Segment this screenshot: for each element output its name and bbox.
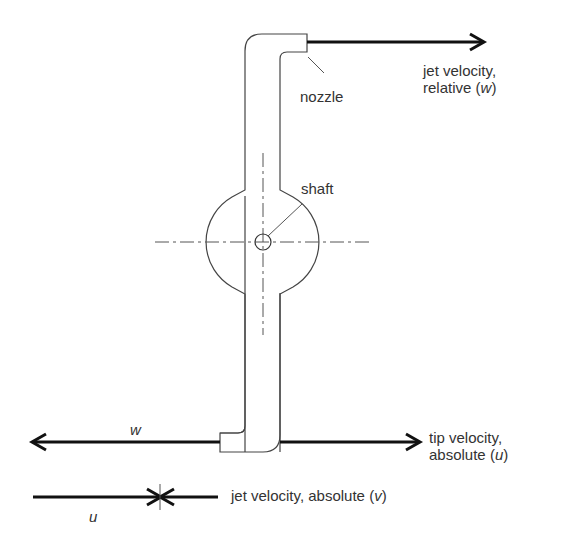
tip-velocity-line2: absolute (u) (429, 446, 508, 463)
jet-relative-line2: relative (w) (423, 79, 496, 96)
tip-velocity-label: tip velocity, absolute (u) (429, 429, 508, 463)
jet-relative-label: jet velocity, relative (w) (423, 62, 496, 96)
jet-absolute-label: jet velocity, absolute (v) (231, 487, 387, 504)
shaft-leader (268, 204, 302, 236)
jet-relative-line1: jet velocity, (423, 62, 496, 79)
nozzle-label: nozzle (300, 88, 343, 105)
u-symbol-label: u (89, 508, 97, 525)
tip-velocity-line1: tip velocity, (429, 429, 508, 446)
w-symbol-label: w (130, 421, 141, 438)
nozzle-leader (308, 57, 324, 73)
rotor-arm-outline (220, 196, 280, 452)
shaft-label: shaft (301, 180, 334, 197)
